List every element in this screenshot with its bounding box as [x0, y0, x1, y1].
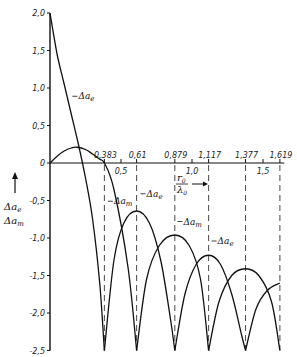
y-tick-label: 1,0	[32, 84, 45, 93]
curve-delta-a-m	[209, 269, 280, 351]
x-tick-label: 0,5	[115, 167, 128, 176]
curve-delta-a-e	[175, 255, 246, 350]
axes: 2,01,51,00,50-0,5-1,0-1,5-2,0-2,50,51,01…	[29, 9, 284, 356]
dashed-marker-label: 0,61	[129, 151, 147, 160]
dashed-marker-label: 0,879	[164, 151, 187, 160]
y-tick-label: 1,5	[32, 47, 45, 56]
y-tick-label: 2,0	[32, 9, 45, 18]
x-tick-label: 1,5	[257, 167, 270, 176]
dashed-markers: 0,3830,610,8791,1171,3771,619	[94, 151, 292, 351]
y-tick-label: -2,0	[29, 309, 45, 318]
curve-label: Δam	[113, 196, 133, 208]
curve-delta-a-e	[50, 13, 104, 351]
curve-label: Δam	[182, 217, 202, 229]
y-tick-label: 0	[40, 159, 45, 168]
y-tick-label: 0,5	[32, 122, 45, 131]
y-axis-label-m: Δam	[3, 215, 24, 228]
dashed-marker-label: 1,117	[198, 151, 222, 160]
y-axis-label-e: Δae	[3, 201, 21, 214]
dashed-marker-label: 1,377	[235, 151, 259, 160]
curve-label: Δae	[146, 189, 163, 201]
y-tick-label: -1,5	[29, 272, 45, 281]
x-axis-numerator: r0	[177, 172, 186, 184]
curve-label: Δae	[217, 236, 234, 248]
y-tick-label: -0,5	[29, 197, 45, 206]
x-axis-denominator: λ0	[176, 184, 187, 196]
y-tick-label: -1,0	[29, 234, 45, 243]
annotations: ΔaeΔamΔaeΔamΔae	[72, 91, 233, 248]
dashed-marker-label: 1,619	[269, 151, 292, 160]
dashed-marker-label: 0,383	[94, 151, 117, 160]
y-axis-title: Δae Δam	[3, 172, 24, 228]
curve-delta-a-m	[50, 147, 137, 350]
y-tick-label: -2,5	[29, 347, 45, 356]
x-tick-label: 1,0	[186, 167, 199, 176]
curve-label: Δae	[77, 91, 94, 103]
chart: 2,01,51,00,50-0,5-1,0-1,5-2,0-2,50,51,01…	[0, 0, 297, 357]
